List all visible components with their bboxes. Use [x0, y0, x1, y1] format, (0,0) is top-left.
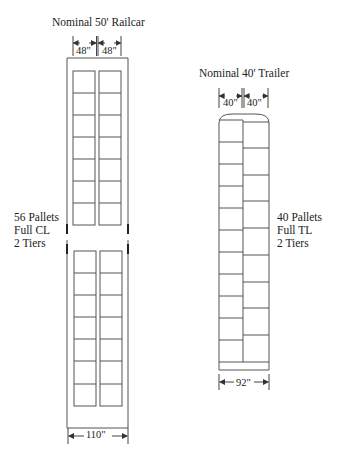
- railcar-pallets-front: [73, 71, 121, 225]
- trailer-pallets-right: [243, 122, 269, 335]
- railcar-pallets-rear: [74, 251, 122, 406]
- trailer-diagram: [219, 88, 269, 390]
- railcar-bottom-dimension: [68, 428, 128, 444]
- trailer-top-dimension: [219, 88, 268, 108]
- trailer-outline: [219, 114, 269, 370]
- railcar-door-marks: [67, 224, 128, 254]
- railcar-diagram: [67, 36, 128, 444]
- railcar-outline: [67, 58, 128, 428]
- railcar-top-dimension: [73, 36, 121, 56]
- pallet-layout-diagram: [0, 0, 347, 455]
- trailer-bottom-dimension: [219, 374, 269, 390]
- trailer-pallets-left: [219, 120, 243, 362]
